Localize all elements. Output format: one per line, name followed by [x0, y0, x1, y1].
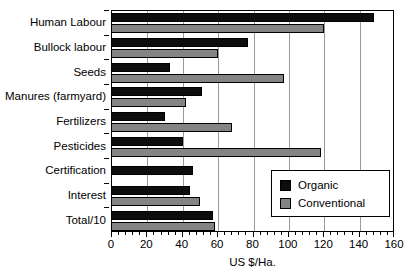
x-axis-tick-label: 160 [384, 238, 403, 250]
x-axis-minor-tick [281, 232, 282, 235]
x-axis-tick [323, 232, 324, 237]
y-axis-tick-label: Manures (farmyard) [0, 90, 106, 102]
bar-conventional [112, 74, 284, 83]
y-axis-tick [104, 109, 109, 110]
x-axis-minor-tick [316, 232, 317, 235]
x-axis-tick-label: 140 [349, 238, 368, 250]
x-axis-tick [146, 232, 147, 237]
y-axis-tick [104, 183, 109, 184]
y-axis-tick [104, 207, 109, 208]
y-axis-tick [104, 35, 109, 36]
y-axis-tick [104, 158, 109, 159]
chart-legend: Organic Conventional [271, 170, 390, 217]
legend-swatch-organic-icon [280, 180, 291, 191]
y-axis-tick [104, 84, 109, 85]
x-axis-minor-tick [373, 232, 374, 235]
x-axis-minor-tick [260, 232, 261, 235]
y-axis-tick [104, 133, 109, 134]
bar-conventional [112, 197, 200, 206]
x-axis-tick-label: 40 [175, 238, 188, 250]
legend-item-conventional: Conventional [280, 194, 389, 212]
y-axis-tick-label: Pesticides [0, 140, 106, 152]
bar-organic [112, 87, 202, 96]
x-axis-minor-tick [210, 232, 211, 235]
bar-row [112, 60, 393, 85]
y-axis-tick [104, 59, 109, 60]
x-axis-minor-tick [224, 232, 225, 235]
bar-organic [112, 13, 374, 22]
y-axis-tick-label: Seeds [0, 66, 106, 78]
bar-row [112, 11, 393, 36]
bar-row [112, 36, 393, 61]
x-axis-minor-tick [125, 232, 126, 235]
y-axis-tick [104, 10, 109, 11]
x-axis-minor-tick [238, 232, 239, 235]
x-axis-minor-tick [175, 232, 176, 235]
x-axis-tick [182, 232, 183, 237]
legend-label-organic: Organic [298, 179, 338, 191]
bar-conventional [112, 222, 215, 231]
x-axis-minor-tick [168, 232, 169, 235]
x-axis-tick [393, 232, 394, 237]
x-axis-minor-tick [132, 232, 133, 235]
bar-chart: Human LabourBullock labourSeedsManures (… [0, 0, 420, 278]
x-axis-tick-label: 0 [108, 238, 114, 250]
bar-organic [112, 112, 165, 121]
x-axis-tick [217, 232, 218, 237]
bar-conventional [112, 123, 232, 132]
x-axis-minor-tick [380, 232, 381, 235]
bar-organic [112, 186, 190, 195]
bar-row [112, 134, 393, 159]
y-axis-tick-label: Bullock labour [0, 41, 106, 53]
bar-conventional [112, 24, 324, 33]
x-axis-minor-tick [161, 232, 162, 235]
bar-row [112, 85, 393, 110]
y-axis-tick-label: Human Labour [0, 16, 106, 28]
x-axis-minor-tick [344, 232, 345, 235]
y-axis-labels: Human LabourBullock labourSeedsManures (… [0, 10, 109, 232]
x-axis-tick [111, 232, 112, 237]
x-axis-tick-label: 80 [246, 238, 259, 250]
x-axis-title: US $/Ha. [111, 256, 394, 268]
legend-item-organic: Organic [280, 176, 389, 194]
bar-conventional [112, 98, 186, 107]
x-axis-minor-tick [366, 232, 367, 235]
x-axis-minor-tick [295, 232, 296, 235]
x-axis-tick [359, 232, 360, 237]
x-axis-tick [253, 232, 254, 237]
x-axis-minor-tick [309, 232, 310, 235]
bar-organic [112, 63, 170, 72]
x-axis-tick-label: 20 [140, 238, 153, 250]
x-axis-minor-tick [267, 232, 268, 235]
legend-swatch-conventional-icon [280, 198, 291, 209]
x-axis-tick [288, 232, 289, 237]
bar-conventional [112, 148, 321, 157]
legend-label-conventional: Conventional [298, 197, 365, 209]
bar-organic [112, 166, 193, 175]
x-axis-minor-tick [203, 232, 204, 235]
x-axis-minor-tick [337, 232, 338, 235]
x-axis-minor-tick [352, 232, 353, 235]
x-axis-minor-tick [118, 232, 119, 235]
y-axis-tick-label: Total/10 [0, 214, 106, 226]
bar-organic [112, 211, 213, 220]
x-axis-minor-tick [231, 232, 232, 235]
x-axis-minor-tick [302, 232, 303, 235]
x-axis-tick-label: 120 [314, 238, 333, 250]
bar-organic [112, 38, 248, 47]
y-axis-tick-label: Certification [0, 164, 106, 176]
x-axis-minor-tick [330, 232, 331, 235]
bar-conventional [112, 49, 218, 58]
x-axis-tick-label: 60 [211, 238, 224, 250]
x-axis-minor-tick [189, 232, 190, 235]
x-axis-minor-tick [153, 232, 154, 235]
bar-row [112, 110, 393, 135]
y-axis-tick-label: Interest [0, 189, 106, 201]
x-axis-minor-tick [274, 232, 275, 235]
y-axis-tick-label: Fertilizers [0, 115, 106, 127]
x-axis-minor-tick [245, 232, 246, 235]
x-axis-tick-label: 100 [278, 238, 297, 250]
bar-organic [112, 137, 183, 146]
x-axis-minor-tick [196, 232, 197, 235]
x-axis-minor-tick [387, 232, 388, 235]
